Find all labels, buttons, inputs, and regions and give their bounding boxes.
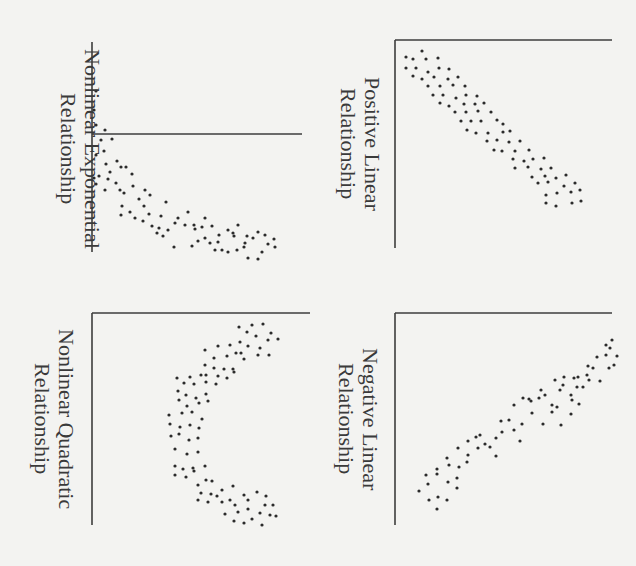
data-point — [550, 403, 553, 406]
data-point — [569, 393, 572, 396]
label-nonlinear-quadratic: Nonlinear Quadratic Relationship — [30, 313, 78, 525]
data-point — [466, 439, 469, 442]
data-point — [555, 405, 558, 408]
data-point — [554, 176, 557, 179]
data-point — [457, 465, 460, 468]
data-point — [476, 109, 479, 112]
data-point — [246, 498, 249, 501]
data-point — [217, 233, 220, 236]
data-point — [464, 110, 467, 113]
data-point — [164, 200, 167, 203]
data-point — [256, 353, 259, 356]
data-point — [499, 419, 502, 422]
data-point — [555, 191, 558, 194]
data-point — [199, 373, 202, 376]
data-point — [256, 257, 259, 260]
data-point — [500, 430, 503, 433]
data-point — [172, 245, 175, 248]
data-point — [451, 83, 454, 86]
data-point — [475, 94, 478, 97]
data-point — [155, 231, 158, 234]
data-point — [465, 460, 468, 463]
data-point — [482, 101, 485, 104]
data-point — [411, 74, 414, 77]
data-point — [508, 129, 511, 132]
data-point — [245, 234, 248, 237]
data-point — [242, 521, 245, 524]
data-point — [192, 382, 195, 385]
data-point — [199, 491, 202, 494]
data-point — [206, 500, 209, 503]
data-point — [200, 417, 203, 420]
data-point — [210, 224, 213, 227]
data-point — [518, 139, 521, 142]
data-point — [591, 366, 594, 369]
data-point — [204, 373, 207, 376]
data-point — [512, 428, 515, 431]
data-point — [185, 404, 188, 407]
data-point — [438, 101, 441, 104]
data-point — [220, 500, 223, 503]
data-point — [581, 385, 584, 388]
data-point — [447, 463, 450, 466]
data-point — [561, 383, 564, 386]
data-point — [181, 467, 184, 470]
data-point — [424, 473, 427, 476]
data-point — [414, 66, 417, 69]
data-point — [182, 381, 185, 384]
data-point — [473, 102, 476, 105]
data-point — [539, 167, 542, 170]
label-line-1: Negative Linear — [358, 313, 382, 525]
data-point — [110, 137, 113, 140]
data-point — [143, 188, 146, 191]
data-point — [543, 174, 546, 177]
data-point — [520, 422, 523, 425]
data-point — [254, 334, 257, 337]
data-point — [246, 344, 249, 347]
data-point — [500, 149, 503, 152]
data-point — [464, 93, 467, 96]
data-point — [246, 507, 249, 510]
data-point — [446, 480, 449, 483]
data-point — [544, 201, 547, 204]
label-negative-linear: Negative Linear Relationship — [334, 313, 382, 525]
data-point — [455, 476, 458, 479]
data-point — [576, 375, 579, 378]
data-point — [209, 492, 212, 495]
data-point — [130, 172, 133, 175]
data-point — [115, 159, 118, 162]
data-point — [210, 479, 213, 482]
data-point — [527, 397, 530, 400]
data-point — [258, 511, 261, 514]
data-point — [212, 356, 215, 359]
data-point — [131, 184, 134, 187]
data-point — [424, 57, 427, 60]
label-line-1: Nonlinear Exponential — [80, 38, 104, 260]
data-point — [492, 148, 495, 151]
data-point — [607, 366, 610, 369]
data-point — [108, 170, 111, 173]
data-point — [203, 363, 206, 366]
data-point — [598, 379, 601, 382]
data-point — [161, 234, 164, 237]
data-point — [562, 375, 565, 378]
data-point — [120, 204, 123, 207]
data-point — [266, 242, 269, 245]
data-point — [544, 193, 547, 196]
data-point — [553, 378, 556, 381]
data-point — [435, 472, 438, 475]
data-point — [237, 325, 240, 328]
data-point — [432, 75, 435, 78]
label-line-2: Relationship — [336, 40, 360, 248]
data-point — [501, 122, 504, 125]
data-point — [513, 149, 516, 152]
data-point — [271, 503, 274, 506]
data-point — [541, 422, 544, 425]
scatter-points — [404, 49, 582, 207]
data-point — [501, 130, 504, 133]
data-point — [513, 166, 516, 169]
data-point — [190, 244, 193, 247]
data-point — [488, 445, 491, 448]
data-point — [142, 204, 145, 207]
data-point — [526, 165, 529, 168]
